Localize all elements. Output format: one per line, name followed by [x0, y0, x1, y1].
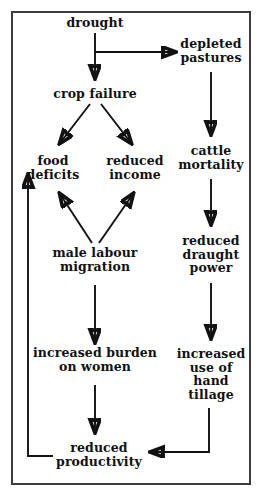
node-increased-burden-on-women[interactable]: increased burden on women	[33, 346, 157, 373]
node-food-deficits[interactable]: food deficits	[27, 154, 80, 181]
node-drought[interactable]: drought	[66, 16, 123, 30]
node-crop-failure[interactable]: crop failure	[53, 87, 136, 101]
node-depleted-pastures[interactable]: depleted pastures	[180, 37, 241, 64]
node-cattle-mortality[interactable]: cattle mortality	[178, 144, 243, 171]
node-reduced-productivity[interactable]: reduced productivity	[56, 441, 142, 468]
node-male-labour-migration[interactable]: male labour migration	[52, 246, 137, 273]
node-reduced-draught-power[interactable]: reduced draught power	[182, 234, 239, 275]
node-increased-use-of-hand-tillage[interactable]: increased use of hand tillage	[177, 347, 246, 401]
diagram-canvas: drought depleted pastures crop failure f…	[0, 0, 263, 497]
node-reduced-income[interactable]: reduced income	[106, 154, 163, 181]
